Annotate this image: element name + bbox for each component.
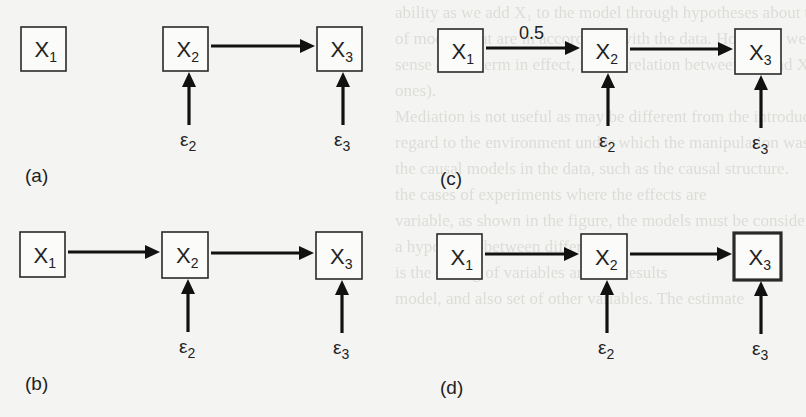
arrowhead-icon [336,72,350,87]
error-term-e2: ε2 [599,130,615,155]
path-coefficient: 0.5 [519,23,544,43]
arrowhead-icon [717,247,732,261]
arrowhead-icon [600,280,614,295]
arrowhead-icon [754,281,768,296]
arrowhead-icon [145,245,160,259]
node-x1: X1 [437,234,482,279]
causal-diagram-figure: X1X2X3ε2ε3(a)X1X2X3ε2ε3(b)X1X2X30.5ε2ε3(… [0,0,806,417]
node-x1: X1 [20,232,65,277]
node-x1: X1 [438,29,483,72]
node-x3: X3 [316,232,362,279]
arrowhead-icon [299,246,314,260]
node-x2: X2 [581,234,627,279]
error-term-e2: ε2 [179,336,195,361]
panel-label: (c) [440,168,462,189]
arrowhead-icon [335,280,349,295]
error-term-e2: ε2 [180,129,196,154]
error-term-e3: ε3 [752,338,768,363]
node-x2: X2 [582,29,627,72]
arrowhead-icon [564,247,579,261]
error-term-e2: ε2 [598,337,614,362]
arrowhead-icon [718,42,733,56]
panel-d: X1X2X3ε2ε3(d) [437,233,781,398]
arrowhead-icon [565,41,580,55]
node-x2: X2 [163,27,208,71]
panel-label: (a) [25,165,48,186]
node-x1: X1 [21,27,66,71]
node-x3: X3 [735,29,781,74]
error-term-e3: ε3 [333,337,349,362]
node-x3: X3 [734,233,781,280]
panel-a: X1X2X3ε2ε3(a) [21,27,362,186]
node-x2: X2 [162,232,208,278]
node-x3: X3 [317,27,362,71]
panel-b: X1X2X3ε2ε3(b) [20,232,362,394]
arrowhead-icon [300,39,315,53]
panel-label: (b) [25,373,48,394]
arrowhead-icon [181,279,195,294]
panel-label: (d) [440,377,463,398]
error-term-e3: ε3 [752,132,768,157]
arrowhead-icon [182,72,196,87]
arrowhead-icon [754,75,768,90]
panel-c: X1X2X30.5ε2ε3(c) [438,23,781,189]
arrowhead-icon [601,73,615,88]
error-term-e3: ε3 [334,129,350,154]
